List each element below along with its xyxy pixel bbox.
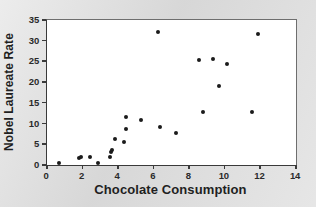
data-point bbox=[174, 131, 178, 135]
scatter-chart-figure: Nobel Laureate Rate 02468101214051015202… bbox=[0, 0, 316, 207]
x-axis-tick bbox=[188, 165, 190, 169]
y-axis-tick bbox=[42, 60, 46, 62]
x-axis-tick-label: 0 bbox=[43, 170, 48, 181]
x-axis-tick bbox=[82, 165, 84, 169]
x-axis-tick bbox=[259, 165, 261, 169]
y-axis-tick bbox=[42, 102, 46, 104]
y-axis-tick-label: 25 bbox=[29, 55, 39, 66]
x-axis-title: Chocolate Consumption bbox=[46, 182, 295, 197]
y-axis-tick bbox=[42, 164, 46, 166]
y-axis-tick bbox=[42, 19, 46, 21]
x-axis-tick bbox=[295, 165, 297, 169]
x-axis-tick bbox=[224, 165, 226, 169]
x-axis-tick-label: 12 bbox=[254, 170, 264, 181]
y-axis-title-text: Nobel Laureate Rate bbox=[2, 33, 16, 151]
x-axis-tick bbox=[46, 165, 48, 169]
data-point bbox=[250, 110, 254, 114]
y-axis-tick-label: 5 bbox=[34, 138, 39, 149]
data-point bbox=[124, 127, 128, 131]
y-axis-tick-label: 15 bbox=[29, 96, 39, 107]
data-point bbox=[158, 125, 162, 129]
data-point bbox=[256, 32, 260, 36]
y-axis-tick-label: 0 bbox=[34, 159, 39, 170]
data-point bbox=[122, 140, 126, 144]
data-point bbox=[124, 115, 128, 119]
x-axis-tick-label: 2 bbox=[79, 170, 84, 181]
y-axis-tick bbox=[42, 81, 46, 83]
data-point bbox=[88, 155, 92, 159]
data-points-layer bbox=[46, 19, 295, 164]
data-point bbox=[139, 118, 143, 122]
x-axis-tick bbox=[153, 165, 155, 169]
y-axis-tick-label: 20 bbox=[29, 76, 39, 87]
data-point bbox=[197, 58, 201, 62]
x-axis-tick-label: 10 bbox=[219, 170, 229, 181]
x-axis-tick-label: 4 bbox=[115, 170, 120, 181]
data-point bbox=[79, 155, 83, 159]
y-axis-tick bbox=[42, 40, 46, 42]
data-point bbox=[113, 137, 117, 141]
x-axis-tick-label: 6 bbox=[150, 170, 155, 181]
y-axis-tick-label: 10 bbox=[29, 117, 39, 128]
y-axis-tick bbox=[42, 143, 46, 145]
data-point bbox=[211, 57, 215, 61]
x-axis-tick-label: 8 bbox=[186, 170, 191, 181]
y-axis-tick-label: 35 bbox=[29, 14, 39, 25]
data-point bbox=[96, 161, 100, 165]
data-point bbox=[156, 30, 160, 34]
data-point bbox=[201, 110, 205, 114]
y-axis-title: Nobel Laureate Rate bbox=[1, 0, 17, 183]
data-point bbox=[217, 84, 221, 88]
data-point bbox=[110, 148, 114, 152]
x-axis-tick-label: 14 bbox=[290, 170, 300, 181]
x-axis-tick bbox=[117, 165, 119, 169]
data-point bbox=[108, 155, 112, 159]
data-point bbox=[225, 62, 229, 66]
y-axis-tick bbox=[42, 123, 46, 125]
y-axis-tick-label: 30 bbox=[29, 34, 39, 45]
